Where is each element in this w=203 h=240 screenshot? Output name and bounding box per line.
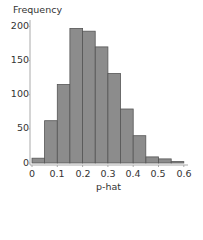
histogram-bar	[171, 162, 184, 163]
histogram-bar	[32, 158, 45, 163]
x-tick-0.3: 0.3	[98, 168, 118, 179]
histogram-bar	[133, 136, 146, 163]
histogram-bar	[57, 85, 70, 164]
histogram-bar	[108, 74, 121, 164]
histogram-bar	[146, 157, 159, 163]
x-tick-0: 0	[22, 168, 42, 179]
x-tick-0.2: 0.2	[73, 168, 93, 179]
x-tick-0.6: 0.6	[174, 168, 194, 179]
x-tick-0.1: 0.1	[47, 168, 67, 179]
histogram-bar	[83, 31, 96, 163]
x-tick-0.4: 0.4	[123, 168, 143, 179]
x-axis-title: p-hat	[96, 181, 121, 192]
histogram-bar	[121, 109, 134, 163]
histogram-bars	[32, 28, 184, 163]
histogram-bar	[70, 28, 83, 163]
x-tick-0.5: 0.5	[148, 168, 168, 179]
histogram-bar	[95, 47, 108, 163]
histogram-bar	[159, 159, 172, 163]
histogram-bar	[45, 121, 58, 163]
